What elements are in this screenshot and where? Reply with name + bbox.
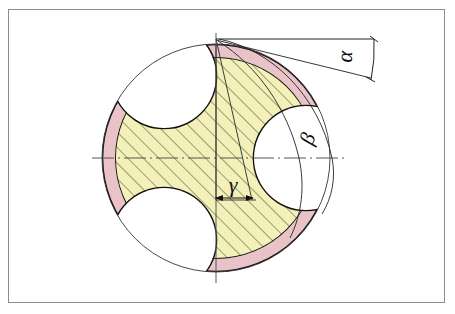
drawing-sheet: α β γ — [0, 0, 455, 314]
angle-gamma-label: γ — [229, 172, 239, 197]
angle-alpha-label: α — [332, 50, 357, 63]
technical-drawing-canvas: α β γ — [0, 0, 455, 314]
drill-cross-section-svg: α β γ — [0, 0, 455, 314]
